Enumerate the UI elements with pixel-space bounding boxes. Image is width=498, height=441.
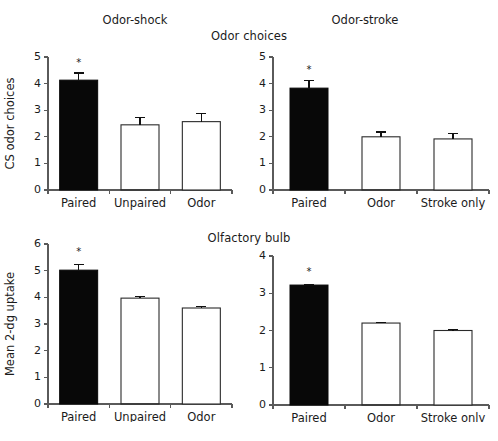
y-tick-label: 5 [259, 50, 266, 63]
error-bar [74, 73, 84, 80]
y-tick-label: 2 [259, 130, 266, 143]
bar-unpaired [121, 298, 159, 404]
bar-stroke-only [434, 331, 472, 406]
x-category-label: Odor [187, 410, 215, 422]
chart-panel-top-left: 012345PairedUnpairedOdor*CS odor choices [0, 45, 249, 220]
x-category-label: Paired [291, 196, 327, 210]
y-axis-title: Mean 2-dg uptake [3, 272, 17, 376]
error-bar [376, 132, 386, 137]
significance-star: * [307, 266, 312, 277]
y-tick-label: 1 [259, 361, 266, 374]
panel-title-odor-stroke: Odor-stroke [300, 13, 430, 27]
bar-odor [362, 137, 400, 190]
x-category-label: Unpaired [114, 196, 166, 210]
x-category-label: Paired [61, 196, 97, 210]
bar-odor [182, 122, 220, 190]
y-tick-label: 1 [34, 370, 41, 383]
chart-svg-top-right: 012345PairedOdorStroke only* [249, 45, 498, 220]
error-bar [196, 114, 206, 122]
bar-odor [362, 323, 400, 405]
y-tick-label: 0 [34, 397, 41, 410]
chart-svg-bottom-right: 01234PairedOdorStroke only* [249, 232, 498, 422]
y-tick-label: 4 [34, 290, 41, 303]
x-category-label: Odor [367, 411, 395, 422]
y-tick-label: 2 [34, 130, 41, 143]
group-title-odor-choices: Odor choices [169, 29, 329, 43]
chart-panel-bottom-left: 0123456PairedUnpairedOdor*Mean 2-dg upta… [0, 232, 249, 422]
y-tick-label: 3 [259, 286, 266, 299]
chart-panel-bottom-right: 01234PairedOdorStroke only* [249, 232, 498, 422]
panel-title-odor-shock: Odor-shock [70, 13, 200, 27]
y-tick-label: 3 [34, 103, 41, 116]
y-tick-label: 3 [34, 317, 41, 330]
error-bar [448, 133, 458, 139]
y-tick-label: 0 [259, 183, 266, 196]
y-tick-label: 4 [259, 249, 266, 262]
x-category-label: Paired [291, 411, 327, 422]
x-category-label: Odor [367, 196, 395, 210]
y-tick-label: 2 [259, 324, 266, 337]
y-tick-label: 1 [34, 156, 41, 169]
y-tick-label: 1 [259, 156, 266, 169]
x-category-label: Paired [61, 410, 97, 422]
x-category-label: Odor [187, 196, 215, 210]
y-tick-label: 5 [34, 50, 41, 63]
significance-star: * [76, 246, 81, 257]
chart-svg-top-left: 012345PairedUnpairedOdor*CS odor choices [0, 45, 249, 220]
chart-svg-bottom-left: 0123456PairedUnpairedOdor*Mean 2-dg upta… [0, 232, 249, 422]
x-category-label: Unpaired [114, 410, 166, 422]
x-category-label: Stroke only [421, 196, 486, 210]
significance-star: * [307, 64, 312, 75]
x-category-label: Stroke only [421, 411, 486, 422]
y-tick-label: 0 [34, 183, 41, 196]
bar-paired [290, 88, 328, 190]
bar-stroke-only [434, 139, 472, 190]
bar-paired [60, 270, 98, 404]
y-tick-label: 5 [34, 264, 41, 277]
bar-unpaired [121, 125, 159, 190]
y-tick-label: 4 [259, 77, 266, 90]
figure-root: Odor-shock Odor-stroke Odor choices Olfa… [0, 0, 498, 441]
bar-paired [290, 285, 328, 405]
y-tick-label: 6 [34, 237, 41, 250]
bar-odor [182, 308, 220, 404]
error-bar [74, 265, 84, 270]
y-tick-label: 2 [34, 344, 41, 357]
error-bar [304, 81, 314, 88]
chart-panel-top-right: 012345PairedOdorStroke only* [249, 45, 498, 220]
y-axis-title: CS odor choices [3, 78, 17, 170]
y-tick-label: 0 [259, 398, 266, 411]
y-tick-label: 4 [34, 77, 41, 90]
error-bar [135, 117, 145, 124]
significance-star: * [76, 57, 81, 68]
bar-paired [60, 80, 98, 190]
y-tick-label: 3 [259, 103, 266, 116]
